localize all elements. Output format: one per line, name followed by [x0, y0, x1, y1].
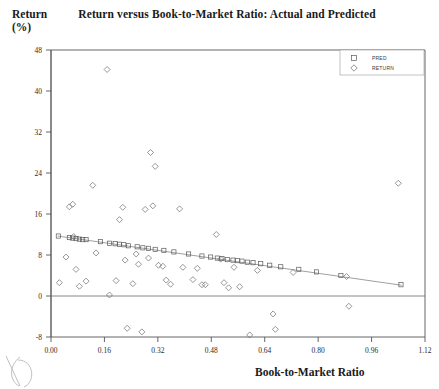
return-data-point	[76, 283, 82, 289]
x-tick-label: 0.32	[151, 346, 164, 355]
x-tick-label: 0.16	[98, 346, 111, 355]
return-data-point	[190, 277, 196, 283]
return-data-point	[168, 281, 174, 287]
return-data-point	[163, 277, 169, 283]
pred-data-point	[172, 250, 176, 254]
x-tick-label: 0.64	[258, 346, 271, 355]
return-data-point	[146, 255, 152, 261]
return-data-point	[73, 266, 79, 272]
legend-frame	[340, 50, 424, 75]
return-data-point	[226, 285, 232, 291]
return-data-point	[177, 206, 183, 212]
return-data-point	[395, 180, 401, 186]
pred-data-point	[117, 242, 121, 246]
x-tick-label: 0.96	[365, 346, 378, 355]
return-data-point	[148, 150, 154, 156]
pred-data-point	[186, 252, 190, 256]
x-tick-label: 1.12	[418, 346, 431, 355]
return-data-point	[113, 278, 119, 284]
return-data-point	[104, 66, 110, 72]
pred-data-point	[200, 254, 204, 258]
return-data-point	[135, 261, 141, 267]
return-data-point	[194, 265, 200, 271]
pred-data-point	[135, 245, 139, 249]
return-data-point	[122, 257, 128, 263]
y-axis: -8081624324048	[35, 46, 52, 342]
pred-data-point	[209, 255, 213, 259]
chart-legend: PREDRETURN	[340, 50, 424, 75]
data-series-return	[56, 66, 401, 337]
legend-label: RETURN	[372, 65, 394, 71]
return-data-point	[120, 204, 126, 210]
y-tick-label: 40	[35, 87, 43, 96]
y-tick-label: 48	[35, 46, 43, 55]
pred-data-point	[225, 258, 229, 262]
return-data-point	[152, 163, 158, 169]
y-tick-label: 24	[35, 169, 43, 178]
scatter-plot-canvas: -8081624324048 0.000.160.320.480.640.800…	[0, 0, 439, 389]
return-data-point	[270, 311, 276, 317]
y-tick-label: 32	[35, 128, 43, 137]
pred-data-point	[153, 247, 157, 251]
data-series-pred	[56, 234, 403, 287]
return-data-point	[116, 217, 122, 223]
return-data-point	[150, 203, 156, 209]
x-tick-label: 0.00	[44, 346, 57, 355]
return-data-point	[66, 204, 72, 210]
y-tick-label: 16	[35, 210, 43, 219]
return-data-point	[139, 329, 145, 335]
x-tick-label: 0.80	[312, 346, 325, 355]
return-data-point	[130, 281, 136, 287]
x-axis: 0.000.160.320.480.640.800.961.12	[44, 337, 431, 355]
return-data-point	[254, 267, 260, 273]
return-data-point	[56, 280, 62, 286]
return-data-point	[344, 274, 350, 280]
return-data-point	[213, 232, 219, 238]
return-data-point	[133, 251, 139, 257]
return-data-point	[124, 325, 130, 331]
return-data-point	[237, 284, 243, 290]
return-data-point	[70, 201, 76, 207]
return-data-point	[93, 250, 99, 256]
return-data-point	[63, 254, 69, 260]
pred-data-point	[162, 248, 166, 252]
return-data-point	[180, 264, 186, 270]
return-data-point	[83, 278, 89, 284]
handwritten-scribble	[6, 356, 32, 387]
y-tick-label: 0	[38, 292, 42, 301]
legend-label: PRED	[372, 55, 387, 61]
y-tick-label: -8	[36, 333, 42, 342]
return-data-point	[90, 182, 96, 188]
x-tick-label: 0.48	[205, 346, 218, 355]
y-tick-label: 8	[38, 251, 42, 260]
chart-container: Return versus Book-to-Market Ratio: Actu…	[0, 0, 439, 389]
return-data-point	[106, 292, 112, 298]
return-data-point	[221, 280, 227, 286]
pred-data-point	[146, 246, 150, 250]
return-data-point	[142, 206, 148, 212]
return-data-point	[272, 326, 278, 332]
return-data-point	[346, 303, 352, 309]
pred-data-point	[122, 243, 126, 247]
return-data-point	[231, 264, 237, 270]
